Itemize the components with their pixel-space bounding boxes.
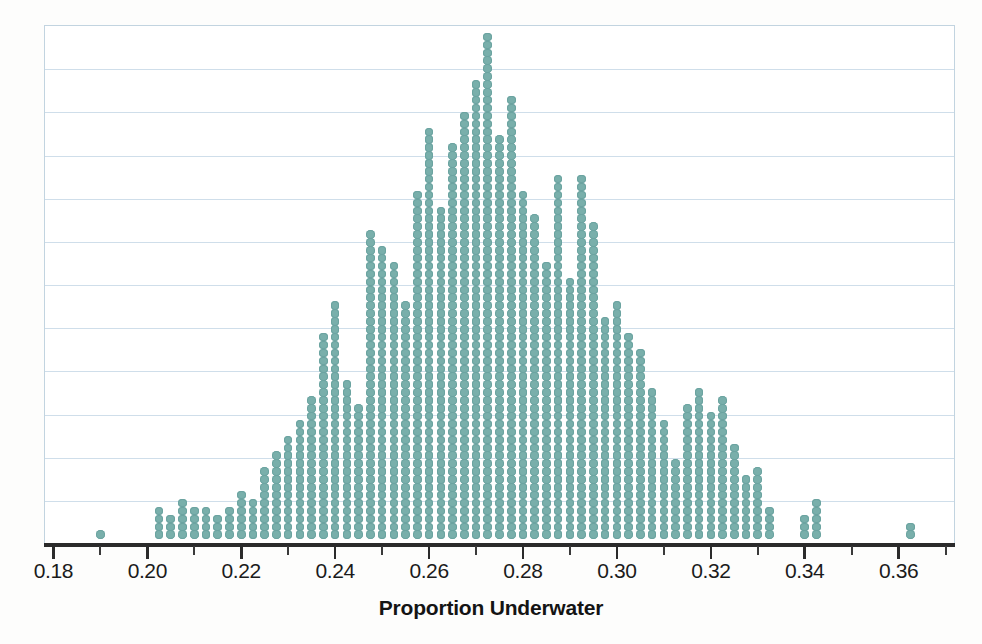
gridline	[45, 199, 954, 200]
axis-tick-label: 0.36	[879, 559, 918, 583]
axis-tick-minor	[381, 546, 383, 555]
axis-tick-label: 0.20	[128, 559, 167, 583]
gridline	[45, 285, 954, 286]
axis-tick-major	[428, 546, 431, 559]
gridline	[45, 112, 954, 113]
gridline	[45, 371, 954, 372]
axis-tick-major	[240, 546, 243, 559]
x-axis-line	[44, 543, 955, 547]
axis-tick-label: 0.24	[316, 559, 355, 583]
axis-tick-major	[522, 546, 525, 559]
axis-tick-minor	[851, 546, 853, 555]
gridline	[45, 501, 954, 502]
axis-tick-major	[710, 546, 713, 559]
axis-tick-label: 0.34	[785, 559, 824, 583]
axis-tick-minor	[663, 546, 665, 555]
axis-tick-minor	[193, 546, 195, 555]
axis-tick-minor	[945, 546, 947, 555]
x-axis-title: Proportion Underwater	[0, 596, 982, 620]
axis-tick-minor	[475, 546, 477, 555]
axis-tick-label: 0.26	[409, 559, 448, 583]
axis-tick-label: 0.18	[34, 559, 73, 583]
plot-panel	[44, 25, 955, 543]
axis-tick-label: 0.30	[597, 559, 636, 583]
axis-tick-label: 0.32	[691, 559, 730, 583]
axis-tick-minor	[287, 546, 289, 555]
axis-tick-minor	[99, 546, 101, 555]
axis-tick-major	[146, 546, 149, 559]
axis-tick-major	[616, 546, 619, 559]
axis-tick-major	[803, 546, 806, 559]
axis-tick-minor	[757, 546, 759, 555]
axis-tick-major	[334, 546, 337, 559]
gridline	[45, 69, 954, 70]
axis-tick-label: 0.28	[503, 559, 542, 583]
gridline	[45, 328, 954, 329]
gridline	[45, 156, 954, 157]
axis-tick-major	[52, 546, 55, 559]
gridline	[45, 415, 954, 416]
gridline	[45, 458, 954, 459]
gridlines	[45, 26, 954, 543]
axis-tick-label: 0.22	[222, 559, 261, 583]
axis-tick-major	[897, 546, 900, 559]
axis-tick-minor	[569, 546, 571, 555]
dot-plot-figure: 0.180.200.220.240.260.280.300.320.340.36…	[0, 0, 982, 644]
gridline	[45, 242, 954, 243]
